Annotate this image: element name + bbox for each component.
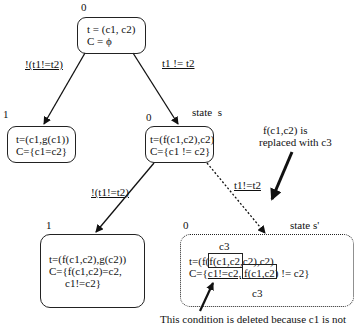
replace-box-c <box>242 264 277 279</box>
node-left1: t=(c1,g(c1)) C={c1=c2} <box>7 126 76 163</box>
delete-note: This condition is deleted because c1 is … <box>160 313 346 325</box>
node-left2-c2: c1!=c2} <box>65 277 101 289</box>
node-root: t = (c1, c2) C = ϕ <box>77 17 146 54</box>
replace-arrow <box>272 152 292 199</box>
edge-label-s-left2: !(t1!=t2) <box>91 186 129 198</box>
node-root-c: C = ϕ <box>87 35 112 47</box>
replace-note-line2: replaced with c3 <box>259 136 332 148</box>
state-index-s: 0 <box>146 111 152 123</box>
sprime-t-prefix: t=(f( <box>189 255 209 267</box>
sprime-top-c3: c3 <box>219 240 229 252</box>
edge-label-s-sprime: t1!=t2 <box>234 179 261 191</box>
sprime-c-prefix: C={ <box>189 267 208 279</box>
node-left1-c: C={c1=c2} <box>16 145 67 157</box>
node-left2-t: t=(f(c1,c2),g(c2)) <box>49 253 126 265</box>
sprime-c-suffix: ) != c2} <box>275 267 310 279</box>
replace-note-line1: f(c1,c2) is <box>263 124 308 136</box>
edge-label-root-left1: !(t1!=t2) <box>25 58 63 70</box>
node-root-t: t = (c1, c2) <box>87 23 135 35</box>
node-left2-c1: C={f(c1,c2)=c2, <box>49 265 122 277</box>
state-index-sprime: 0 <box>183 219 189 231</box>
node-left2: t=(f(c1,c2),g(c2)) C={f(c1,c2)=c2, c1!=c… <box>40 234 145 308</box>
node-s-c: C={c1 != c2} <box>150 145 210 157</box>
state-index-root: 0 <box>81 1 87 13</box>
state-index-left1: 1 <box>3 108 9 120</box>
state-index-left2: 1 <box>46 219 52 231</box>
sprime-c-deleted-condition: c1!=c2, <box>208 267 241 279</box>
sprime-bottom-c3: c3 <box>252 287 262 299</box>
node-sprime: c3 t=(f(f(c1,c2,c2),c2) C={c1!=c2, f(c1,… <box>180 234 354 307</box>
replace-box-t <box>208 253 243 268</box>
node-left1-t: t=(c1,g(c1)) <box>16 133 69 145</box>
state-label-sprime: state s' <box>290 219 319 231</box>
node-s-t: t=(f(c1,c2),c2) <box>150 133 214 145</box>
edge-s-sprime <box>207 163 265 233</box>
node-s: t=(f(c1,c2),c2) C={c1 != c2} <box>145 126 214 163</box>
state-label-s: state s <box>192 106 222 118</box>
edge-label-root-s: t1 != t2 <box>162 57 194 69</box>
